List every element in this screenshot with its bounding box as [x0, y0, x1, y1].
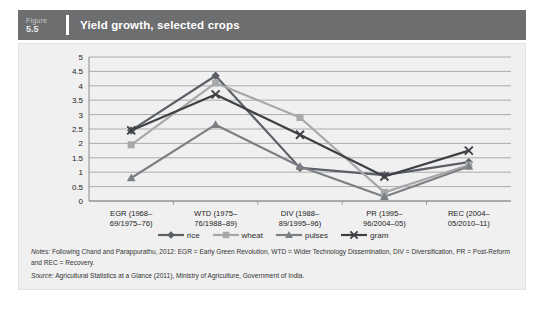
legend-label-wheat: wheat — [242, 231, 263, 240]
legend-swatch-triangle-icon — [276, 230, 302, 240]
data-point-wheat-0 — [128, 141, 135, 148]
data-point-wheat-1 — [212, 79, 219, 86]
legend-label-pulses: pulses — [305, 231, 328, 240]
y-tick-label: 2 — [79, 139, 84, 148]
figure-notes: Notes: Following Chand and Parappurathu,… — [31, 247, 517, 268]
legend-swatch-diamond-icon — [158, 230, 184, 240]
legend-label-gram: gram — [370, 231, 388, 240]
legend-item-wheat[interactable]: wheat — [213, 230, 263, 240]
y-tick-label: 0 — [79, 197, 84, 206]
y-axis-tick-labels: 00.511.522.533.544.55 — [72, 53, 84, 206]
x-category-label-2: DIV (1988– — [281, 209, 320, 218]
source-lead-label: Source: — [31, 272, 54, 279]
y-tick-label: 3.5 — [72, 96, 84, 105]
y-tick-label: 0.5 — [72, 183, 84, 192]
series-line-wheat — [131, 83, 469, 192]
figure-source: Source: Agricultural Statistics at a Gla… — [31, 271, 517, 281]
notes-text: Following Chand and Parappurathu, 2012: … — [31, 248, 510, 266]
x-category-label-4: REC (2004– — [448, 209, 491, 218]
figure-page: Figure 5.5 Yield growth, selected crops … — [0, 0, 544, 310]
legend-item-rice[interactable]: rice — [158, 230, 200, 240]
x-category-label-0: EGR (1968– — [110, 209, 153, 218]
series-lines — [131, 76, 469, 197]
data-point-pulses-1 — [211, 120, 220, 128]
legend-label-rice: rice — [187, 231, 200, 240]
figure-number: 5.5 — [26, 25, 66, 34]
figure-number-block: Figure 5.5 — [18, 17, 66, 34]
notes-lead-label: Notes: — [31, 248, 50, 255]
header-divider-rule — [66, 15, 69, 35]
figure-label-word: Figure — [26, 17, 66, 24]
data-point-wheat-2 — [297, 114, 304, 121]
chart-legend: ricewheatpulsesgram — [19, 227, 527, 243]
figure-header: Figure 5.5 Yield growth, selected crops — [18, 10, 526, 40]
legend-swatch-cross-icon — [341, 230, 367, 240]
y-tick-label: 4 — [79, 82, 84, 91]
y-tick-label: 3 — [79, 111, 84, 120]
series-line-rice — [131, 76, 469, 175]
category-labels: EGR (1968–69/1975–76)WTD (1975–76/1988–8… — [110, 209, 491, 228]
legend-item-gram[interactable]: gram — [341, 230, 388, 240]
x-category-label-1: WTD (1975– — [194, 209, 238, 218]
plot-area: 00.511.522.533.544.55 EGR (1968–69/1975–… — [19, 49, 527, 231]
y-tick-label: 2.5 — [72, 125, 84, 134]
y-tick-label: 1 — [79, 168, 84, 177]
y-tick-label: 4.5 — [72, 67, 84, 76]
source-text: Agricultural Statistics at a Glance (201… — [54, 272, 305, 279]
x-category-label-3: PR (1995– — [366, 209, 403, 218]
legend-item-pulses[interactable]: pulses — [276, 230, 328, 240]
chart-panel: 00.511.522.533.544.55 EGR (1968–69/1975–… — [18, 43, 526, 290]
y-tick-label: 1.5 — [72, 154, 84, 163]
x-axis-ticks — [173, 201, 426, 205]
legend-swatch-square-icon — [213, 230, 239, 240]
figure-title: Yield growth, selected crops — [80, 19, 240, 31]
y-tick-label: 5 — [79, 53, 84, 62]
line-chart-svg: 00.511.522.533.544.55 EGR (1968–69/1975–… — [19, 49, 527, 231]
data-point-gram-2 — [296, 131, 304, 139]
